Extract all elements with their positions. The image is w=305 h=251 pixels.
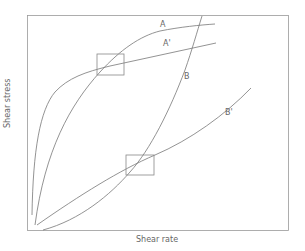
curve-a-prime-label: A'	[163, 40, 171, 48]
curve-a	[35, 24, 215, 225]
curve-b-prime	[37, 88, 251, 225]
highlight-box-a	[97, 54, 124, 75]
curve-a-label: A	[160, 21, 165, 29]
rheology-diagram	[0, 0, 305, 251]
curve-b-prime-label: B'	[225, 109, 233, 117]
plot-frame	[28, 16, 289, 231]
y-axis-label: Shear stress	[4, 79, 12, 128]
x-axis-label: Shear rate	[136, 236, 178, 244]
curve-b	[43, 16, 202, 230]
curve-b-label: B	[184, 73, 190, 81]
